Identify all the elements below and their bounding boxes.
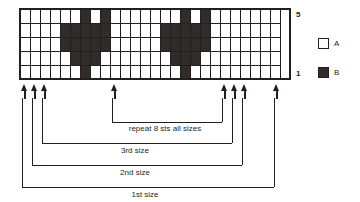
repeat-bracket-span-line (112, 122, 222, 123)
chart-cell-a (231, 66, 241, 80)
chart-cell-a (241, 10, 251, 24)
chart-cell-b (181, 52, 191, 66)
chart-cell-a (31, 52, 41, 66)
chart-cell-b (181, 38, 191, 52)
third-size-bracket-right-line (232, 98, 233, 143)
chart-cell-a (31, 66, 41, 80)
chart-cell-a (61, 10, 71, 24)
chart-cell-a (111, 38, 121, 52)
chart-cell-b (191, 52, 201, 66)
chart-cell-a (41, 10, 51, 24)
chart-cell-b (71, 52, 81, 66)
chart-grid-row (21, 52, 281, 66)
legend-label-a: A (334, 40, 339, 48)
chart-cell-a (231, 10, 241, 24)
chart-cell-b (191, 38, 201, 52)
chart-cell-a (251, 52, 261, 66)
chart-cell-a (131, 52, 141, 66)
chart-cell-a (101, 52, 111, 66)
arrow-shaft (224, 89, 226, 99)
chart-cell-a (51, 38, 61, 52)
chart-cell-a (161, 10, 171, 24)
chart-cell-a (31, 10, 41, 24)
chart-cell-a (151, 10, 161, 24)
chart-cell-a (151, 24, 161, 38)
chart-cell-b (201, 10, 211, 24)
chart-cell-a (121, 10, 131, 24)
chart-cell-a (211, 24, 221, 38)
chart-cell-a (41, 24, 51, 38)
chart-cell-a (211, 52, 221, 66)
arrow-shaft (114, 89, 116, 99)
chart-cell-a (231, 52, 241, 66)
chart-cell-a (41, 38, 51, 52)
caption-first-size: 1st size (65, 191, 225, 199)
chart-cell-b (91, 38, 101, 52)
chart-cell-a (41, 52, 51, 66)
chart-cell-a (251, 10, 261, 24)
chart-cell-a (101, 66, 111, 80)
chart-cell-a (271, 52, 281, 66)
chart-cell-a (121, 66, 131, 80)
chart-cell-b (61, 38, 71, 52)
chart-cell-a (191, 10, 201, 24)
chart-cell-a (121, 24, 131, 38)
chart-cell-a (71, 10, 81, 24)
arrow-shaft (276, 89, 278, 99)
chart-cell-a (41, 66, 51, 80)
arrow-shaft (34, 89, 36, 99)
chart-cell-b (81, 66, 91, 80)
chart-cell-b (81, 52, 91, 66)
chart-cell-a (161, 66, 171, 80)
chart-cell-a (231, 24, 241, 38)
repeat-bracket-left-line (112, 98, 113, 122)
chart-cell-b (181, 24, 191, 38)
arrow-shaft (44, 89, 46, 99)
chart-cell-a (91, 66, 101, 80)
caption-third-size: 3rd size (55, 147, 215, 155)
chart-cell-b (161, 24, 171, 38)
chart-cell-a (61, 52, 71, 66)
chart-cell-a (211, 38, 221, 52)
chart-legend: A B (318, 38, 339, 96)
chart-cell-a (241, 52, 251, 66)
chart-cell-a (21, 24, 31, 38)
chart-cell-b (191, 24, 201, 38)
chart-cell-a (171, 66, 181, 80)
legend-swatch-b-icon (318, 67, 329, 78)
chart-cell-a (71, 66, 81, 80)
chart-cell-a (141, 24, 151, 38)
chart-cell-a (251, 66, 261, 80)
chart-cell-b (91, 52, 101, 66)
chart-cell-a (271, 38, 281, 52)
chart-cell-a (121, 52, 131, 66)
chart-cell-b (71, 38, 81, 52)
chart-cell-a (151, 66, 161, 80)
chart-cell-a (31, 24, 41, 38)
chart-cell-a (21, 38, 31, 52)
legend-swatch-a-icon (318, 38, 329, 49)
chart-cell-a (131, 10, 141, 24)
chart-grid-row (21, 66, 281, 80)
chart-cell-a (261, 24, 271, 38)
chart-cell-a (241, 66, 251, 80)
chart-cell-a (61, 66, 71, 80)
legend-item-a: A (318, 38, 339, 49)
chart-cell-a (271, 10, 281, 24)
chart-cell-a (151, 38, 161, 52)
row-number-bottom: 1 (296, 70, 300, 78)
chart-cell-a (201, 52, 211, 66)
chart-cell-b (81, 38, 91, 52)
chart-cell-a (251, 24, 261, 38)
third-size-bracket-left-line (42, 98, 43, 143)
chart-cell-a (261, 52, 271, 66)
chart-cell-a (271, 24, 281, 38)
chart-cell-b (171, 24, 181, 38)
chart-cell-a (171, 10, 181, 24)
chart-cell-a (191, 66, 201, 80)
chart-cell-b (161, 38, 171, 52)
chart-grid-row (21, 24, 281, 38)
chart-cell-a (111, 52, 121, 66)
chart-cell-a (131, 66, 141, 80)
chart-grid-table (20, 9, 281, 80)
